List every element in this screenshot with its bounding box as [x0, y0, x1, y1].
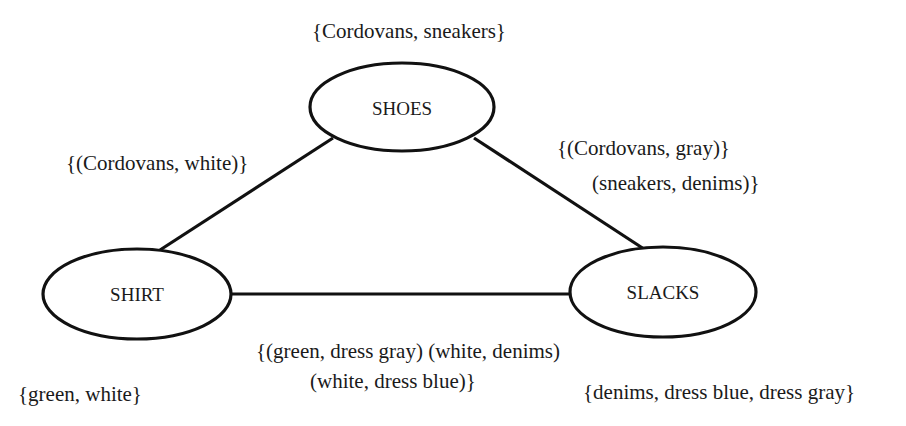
- shirt-domain-label: {green, white}: [18, 382, 142, 406]
- edge-shirt-slacks-constraint-line1: {(green, dress gray) (white, denims): [256, 339, 560, 363]
- constraint-graph-diagram: SHOES SHIRT SLACKS {Cordovans, sneakers}…: [0, 0, 906, 426]
- node-slacks: SLACKS: [570, 247, 756, 337]
- edge-shoes-slacks-constraint-line2: (sneakers, denims)}: [592, 171, 760, 195]
- slacks-domain-label: {denims, dress blue, dress gray}: [583, 380, 855, 404]
- edge-shirt-shoes-constraint: {(Cordovans, white)}: [66, 151, 248, 175]
- node-shirt: SHIRT: [43, 249, 231, 339]
- node-shoes-label: SHOES: [372, 98, 432, 119]
- edge-shoes-slacks-constraint-line1: {(Cordovans, gray)}: [557, 136, 730, 160]
- shoes-domain-label: {Cordovans, sneakers}: [312, 19, 506, 43]
- edge-shirt-slacks-constraint-line2: (white, dress blue)}: [310, 369, 476, 393]
- node-slacks-label: SLACKS: [627, 282, 700, 303]
- node-shoes: SHOES: [310, 63, 494, 151]
- node-shirt-label: SHIRT: [110, 284, 164, 305]
